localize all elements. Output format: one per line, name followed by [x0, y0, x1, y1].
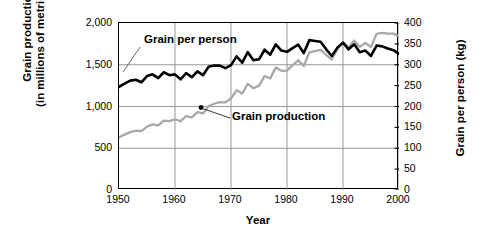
annotation-grain-per-person: Grain per person — [144, 33, 237, 45]
y-axis-left-title-line1: Grain production — [21, 0, 34, 82]
y-tick-left-1000: 1,000 — [86, 100, 112, 111]
x-axis-title: Year — [118, 214, 398, 226]
annotation-grain-production: Grain production — [232, 110, 325, 122]
y-tick-left-1500: 1,500 — [86, 59, 112, 70]
y-tick-right-400: 400 — [404, 17, 422, 28]
y-axis-left-title: Grain production (in millions of metric … — [17, 0, 51, 115]
x-tick-1950: 1950 — [106, 194, 129, 205]
x-tick-2000: 2000 — [386, 194, 409, 205]
series-line-grain-per-person — [119, 40, 399, 87]
axis-tickmarks — [395, 23, 400, 190]
y-tick-right-200: 200 — [404, 100, 422, 111]
plot-svg — [119, 23, 399, 190]
chart-figure: Grain production (in millions of metric … — [0, 0, 489, 235]
x-tick-1990: 1990 — [330, 194, 353, 205]
y-tick-right-50: 50 — [404, 163, 416, 174]
x-tick-1970: 1970 — [218, 194, 241, 205]
y-tick-right-250: 250 — [404, 79, 422, 90]
y-tick-right-350: 350 — [404, 38, 422, 49]
x-tick-1960: 1960 — [162, 194, 185, 205]
y-tick-left-2000: 2,000 — [86, 17, 112, 28]
y-tick-left-500: 500 — [94, 142, 112, 153]
y-axis-left-title-line2: (in millions of metric tons) — [34, 0, 47, 107]
y-tick-right-150: 150 — [404, 121, 422, 132]
clipped-title — [150, 0, 350, 5]
y-tick-right-300: 300 — [404, 59, 422, 70]
y-axis-right-title: Grain per person (kg) — [452, 18, 468, 178]
x-tick-1980: 1980 — [274, 194, 297, 205]
y-tick-right-100: 100 — [404, 142, 422, 153]
plot-area — [118, 22, 398, 189]
